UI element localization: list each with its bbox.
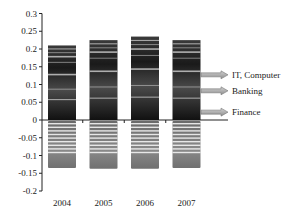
- legend-label: IT, Computer: [232, 70, 280, 80]
- bar-stripe: [90, 148, 118, 149]
- bar-stripe: [48, 152, 76, 153]
- bar-stripe: [90, 47, 118, 48]
- bar-stripe: [173, 58, 201, 59]
- bar-stripe: [90, 130, 118, 131]
- bar-stripe: [90, 51, 118, 53]
- bar-stripe: [131, 127, 159, 128]
- bar-stripe: [173, 134, 201, 135]
- bar-stripe: [131, 55, 159, 56]
- legend-label: Banking: [232, 86, 263, 96]
- bar-stripe: [131, 152, 159, 153]
- bar-stripe: [48, 145, 76, 146]
- legend-annotations: IT, ComputerBankingFinance: [201, 70, 280, 117]
- bar-stripe: [131, 85, 159, 86]
- legend-item: Finance: [201, 107, 261, 117]
- bar-stripe: [48, 137, 76, 138]
- bar-stripe: [90, 152, 118, 153]
- bar-stripe: [131, 148, 159, 149]
- bar-stripe: [131, 137, 159, 138]
- bar-stripe: [173, 43, 201, 44]
- bar-stripe: [48, 130, 76, 131]
- bar-stripe: [173, 51, 201, 53]
- x-tick-label: 2005: [95, 198, 114, 208]
- bar-stripe: [90, 137, 118, 138]
- bar-negative: [48, 121, 76, 168]
- bar-stripe: [173, 141, 201, 142]
- bar-stripe: [90, 70, 118, 72]
- x-tick-label: 2006: [136, 198, 155, 208]
- y-tick-label: -0.05: [18, 133, 37, 143]
- bar-stripe: [173, 152, 201, 153]
- x-tick-label: 2007: [178, 198, 197, 208]
- arrow-right-icon: [201, 87, 228, 95]
- x-axis-labels: 2004200520062007: [53, 198, 196, 208]
- bar-stripe: [131, 141, 159, 142]
- bar-stripe: [48, 148, 76, 149]
- bar-stripe: [173, 123, 201, 124]
- bar-stripe: [90, 43, 118, 44]
- y-tick-label: -0.15: [18, 168, 37, 178]
- bar-stripe: [173, 137, 201, 138]
- bars: [48, 37, 201, 169]
- bar-stripe: [131, 44, 159, 45]
- bar-stripe: [48, 134, 76, 135]
- bar-stripe: [131, 145, 159, 146]
- bar-stripe: [48, 62, 76, 63]
- legend-item: IT, Computer: [201, 70, 280, 80]
- y-tick-label: 0: [33, 115, 38, 125]
- y-tick-label: 0.15: [21, 62, 37, 72]
- bar-stripe: [173, 148, 201, 149]
- bar-stripe: [173, 70, 201, 72]
- bar-2007: [173, 40, 201, 168]
- bar-stripe: [173, 86, 201, 87]
- bar-2006: [131, 37, 159, 169]
- stacked-bar-chart: 0.30.250.20.150.10.050-0.05-0.1-0.15-0.2…: [0, 0, 286, 220]
- legend-item: Banking: [201, 86, 263, 96]
- arrow-right-icon: [201, 108, 228, 116]
- bar-stripe: [173, 127, 201, 128]
- bar-stripe: [131, 40, 159, 41]
- bar-stripe: [173, 130, 201, 131]
- bar-stripe: [48, 74, 76, 76]
- y-tick-label: 0.1: [26, 80, 37, 90]
- bar-stripe: [131, 134, 159, 135]
- bar-stripe: [48, 127, 76, 128]
- bar-stripe: [48, 89, 76, 90]
- bar-negative: [173, 121, 201, 168]
- bar-stripe: [48, 52, 76, 53]
- bar-stripe: [90, 86, 118, 87]
- bar-stripe: [90, 134, 118, 135]
- y-tick-label: 0.3: [26, 9, 38, 19]
- bar-stripe: [173, 98, 201, 99]
- bar-stripe: [48, 48, 76, 49]
- bar-stripe: [90, 127, 118, 128]
- bar-stripe: [173, 47, 201, 48]
- bar-2005: [90, 40, 118, 169]
- bar-stripe: [90, 123, 118, 124]
- bar-stripe: [90, 98, 118, 99]
- x-tick-label: 2004: [53, 198, 72, 208]
- bar-stripe: [173, 145, 201, 146]
- bar-stripe: [131, 123, 159, 124]
- bar-stripe: [48, 141, 76, 142]
- bar-stripe: [131, 48, 159, 50]
- y-tick-label: -0.2: [23, 186, 37, 196]
- y-tick-label: 0.2: [26, 44, 37, 54]
- bar-stripe: [90, 141, 118, 142]
- bar-stripe: [48, 56, 76, 58]
- bar-stripe: [131, 130, 159, 131]
- y-tick-label: 0.25: [21, 26, 37, 36]
- bar-stripe: [48, 123, 76, 124]
- bar-stripe: [48, 99, 76, 100]
- bar-2004: [48, 45, 76, 167]
- bar-stripe: [90, 58, 118, 59]
- y-tick-label: -0.1: [23, 151, 37, 161]
- bar-stripe: [131, 68, 159, 70]
- bar-stripe: [131, 97, 159, 98]
- y-tick-label: 0.05: [21, 97, 37, 107]
- legend-label: Finance: [232, 107, 261, 117]
- arrow-right-icon: [201, 71, 228, 79]
- bar-stripe: [90, 145, 118, 146]
